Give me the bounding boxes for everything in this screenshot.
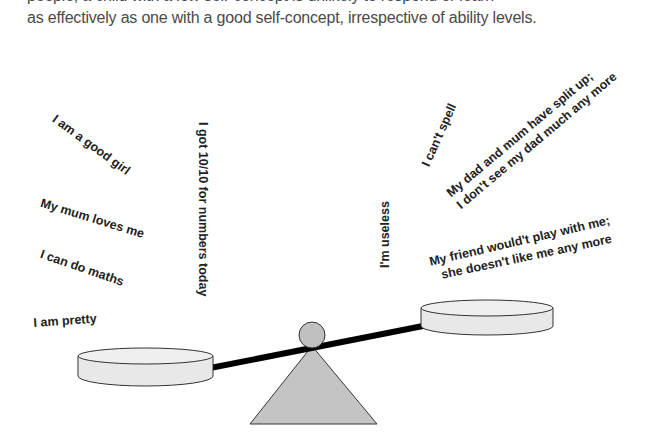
- left-pan: [78, 348, 213, 386]
- statement-got-10-10: I got 10/10 for numbers today: [196, 122, 210, 296]
- right-pan: [421, 300, 553, 335]
- pivot-ball: [299, 322, 325, 348]
- statement-useless: I'm useless: [378, 201, 392, 268]
